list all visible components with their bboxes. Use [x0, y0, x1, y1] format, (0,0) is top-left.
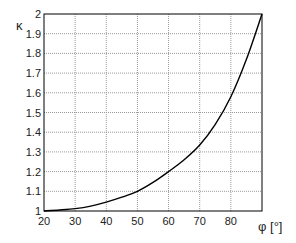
x-axis-label: φ [°]	[258, 219, 282, 234]
x-tick-label: 60	[162, 215, 174, 227]
y-tick-label: 2	[35, 8, 41, 20]
y-tick-label: 1.7	[26, 67, 41, 79]
x-tick-label: 40	[100, 215, 112, 227]
x-tick-label: 80	[225, 215, 237, 227]
y-tick-label: 1.6	[26, 87, 41, 99]
x-tick-label: 30	[69, 215, 81, 227]
y-tick-label: 1.3	[26, 146, 41, 158]
y-axis-ticks: 11.11.21.31.41.51.61.71.81.92	[26, 8, 41, 217]
x-axis-ticks: 20304050607080	[38, 215, 237, 227]
y-axis-label: κ	[16, 18, 23, 33]
y-tick-label: 1.4	[26, 126, 41, 138]
x-tick-label: 50	[131, 215, 143, 227]
y-tick-label: 1.2	[26, 166, 41, 178]
y-tick-label: 1.8	[26, 47, 41, 59]
chart: 20304050607080 11.11.21.31.41.51.61.71.8…	[0, 0, 296, 243]
y-tick-label: 1.9	[26, 28, 41, 40]
x-tick-label: 70	[194, 215, 206, 227]
grid-lines	[44, 14, 262, 211]
y-tick-label: 1.1	[26, 185, 41, 197]
y-tick-label: 1	[35, 205, 41, 217]
y-tick-label: 1.5	[26, 107, 41, 119]
